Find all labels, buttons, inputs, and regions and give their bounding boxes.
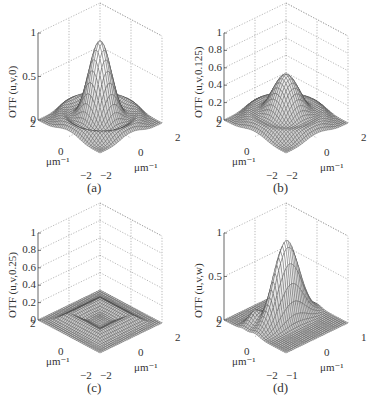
z-tick-label: 0.8 [22,244,36,255]
surface-plot-a [0,0,186,200]
z-tick-label: 0.4 [22,279,36,290]
z-tick-label: 1 [217,227,223,238]
z-tick-label: 0.5 [22,71,36,82]
x-axis-label: μm⁻¹ [232,156,256,167]
y-tick-label: 0 [138,347,144,358]
z-tick-label: 1 [217,27,223,38]
subplot-d: 10.50OTF (u,v,w)20−2−101μm⁻¹μm⁻¹(d) [186,200,372,400]
surface-mesh [38,41,162,153]
z-tick-label: 1 [31,227,37,238]
y-axis-label: μm⁻¹ [320,362,344,373]
surface-mesh [38,290,162,353]
y-tick-label: 0 [324,147,330,158]
z-tick-label: 0.8 [208,44,222,55]
subplot-b: 10.80.60.40.20OTF (u,v,0.125)20−2−202μm⁻… [186,0,372,200]
subplot-c: 10.80.60.40.20OTF (u,v,0.25)20−2−202μm⁻¹… [0,200,186,400]
z-tick-label: 0.2 [22,297,36,308]
z-tick-label: 0.6 [208,62,222,73]
y-tick-label: −2 [100,370,112,381]
panel-caption: (d) [273,380,288,396]
z-tick-label: 0.6 [22,262,36,273]
z-axis-label: OTF (u,v,0) [6,66,18,118]
z-tick-label: 0.5 [208,271,222,282]
y-tick-label: −2 [100,170,112,181]
panel-caption: (a) [87,180,101,196]
surface-mesh [224,74,348,153]
x-tick-label: 2 [216,318,222,329]
z-axis-label: OTF (u,v,0.125) [192,47,204,118]
x-tick-label: 2 [30,318,36,329]
z-tick-label: 0.4 [208,79,222,90]
z-axis-label: OTF (u,v,0.25) [6,252,18,318]
z-tick-label: 1 [31,27,37,38]
z-tick-label: 0.2 [208,97,222,108]
y-tick-label: 0 [138,147,144,158]
panel-caption: (b) [273,180,288,196]
surface-mesh [224,241,348,353]
y-axis-label: μm⁻¹ [134,362,158,373]
y-tick-label: 2 [175,332,181,343]
y-tick-label: 1 [361,332,367,343]
x-axis-label: μm⁻¹ [46,156,70,167]
y-tick-label: 2 [175,132,181,143]
x-tick-label: 2 [216,118,222,129]
x-axis-label: μm⁻¹ [46,356,70,367]
panel-caption: (c) [87,380,101,396]
y-axis-label: μm⁻¹ [134,162,158,173]
y-tick-label: 2 [361,132,367,143]
x-axis-label: μm⁻¹ [232,356,256,367]
subplot-a: 10.50OTF (u,v,0)20−2−202μm⁻¹μm⁻¹(a) [0,0,186,200]
z-axis-label: OTF (u,v,w) [192,263,204,318]
x-tick-label: 2 [30,118,36,129]
y-axis-label: μm⁻¹ [320,162,344,173]
y-tick-label: 0 [324,347,330,358]
surface-plot-d [186,200,372,400]
